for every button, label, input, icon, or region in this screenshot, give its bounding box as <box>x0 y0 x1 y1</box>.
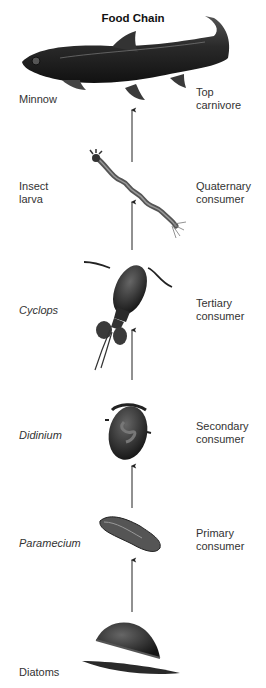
cyclops-copepod-icon <box>84 260 172 370</box>
role-line2: carnivore <box>196 99 241 111</box>
label-diatoms: Diatoms <box>19 666 59 679</box>
role-line2: consumer <box>196 310 244 322</box>
diatoms-icon <box>82 623 180 674</box>
paramecium-icon <box>100 517 160 552</box>
role-line2: consumer <box>196 433 244 445</box>
role-tertiary-consumer: Tertiary consumer <box>196 297 244 323</box>
label-insect-larva-line1: Insect <box>19 180 48 192</box>
label-cyclops: Cyclops <box>19 304 58 317</box>
role-line1: Secondary <box>196 420 249 432</box>
role-line1: Primary <box>196 527 234 539</box>
role-line1: Tertiary <box>196 297 232 309</box>
insect-larva-icon <box>90 149 186 238</box>
didinium-icon <box>104 403 152 464</box>
role-secondary-consumer: Secondary consumer <box>196 420 249 446</box>
role-primary-consumer: Primary consumer <box>196 527 244 553</box>
label-minnow: Minnow <box>19 93 57 106</box>
role-line1: Top <box>196 86 214 98</box>
role-line1: Quaternary <box>196 180 251 192</box>
label-insect-larva-line2: larva <box>19 193 43 205</box>
label-paramecium: Paramecium <box>19 537 81 550</box>
label-didinium: Didinium <box>19 429 62 442</box>
role-line2: consumer <box>196 193 244 205</box>
role-quaternary-consumer: Quaternary consumer <box>196 180 251 206</box>
role-line2: consumer <box>196 540 244 552</box>
label-insect-larva: Insect larva <box>19 180 48 206</box>
role-top-carnivore: Top carnivore <box>196 86 241 112</box>
